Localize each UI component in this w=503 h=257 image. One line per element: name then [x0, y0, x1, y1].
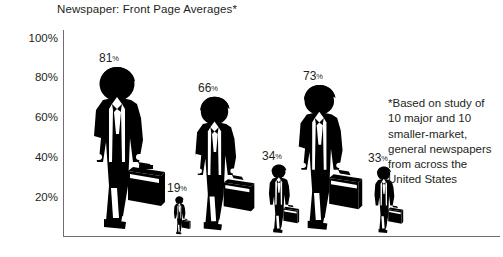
chart-page: Newspaper: Front Page Averages* 100% 80%… [0, 0, 503, 257]
y-tick-label: 20% [13, 191, 58, 203]
value-label-big: 66% [198, 82, 218, 94]
value-label-big: 73% [303, 70, 323, 82]
y-tick-label: 100% [13, 32, 58, 44]
y-axis-tick-labels: 100% 80% 60% 40% 20% [8, 0, 58, 257]
footnote-annotation: *Based on study of 10 major and 10 small… [388, 96, 500, 188]
page-title: Newspaper: Front Page Averages* [57, 3, 237, 15]
value-label-small: 33% [368, 152, 388, 164]
y-tick-label: 80% [13, 71, 58, 83]
pictogram-big [280, 84, 364, 236]
value-label-big: 81% [99, 52, 119, 64]
pictogram-big [178, 96, 256, 236]
x-axis-line [63, 236, 500, 237]
y-tick-label: 60% [13, 111, 58, 123]
pictogram-big [73, 66, 167, 236]
y-tick-label: 40% [13, 151, 58, 163]
